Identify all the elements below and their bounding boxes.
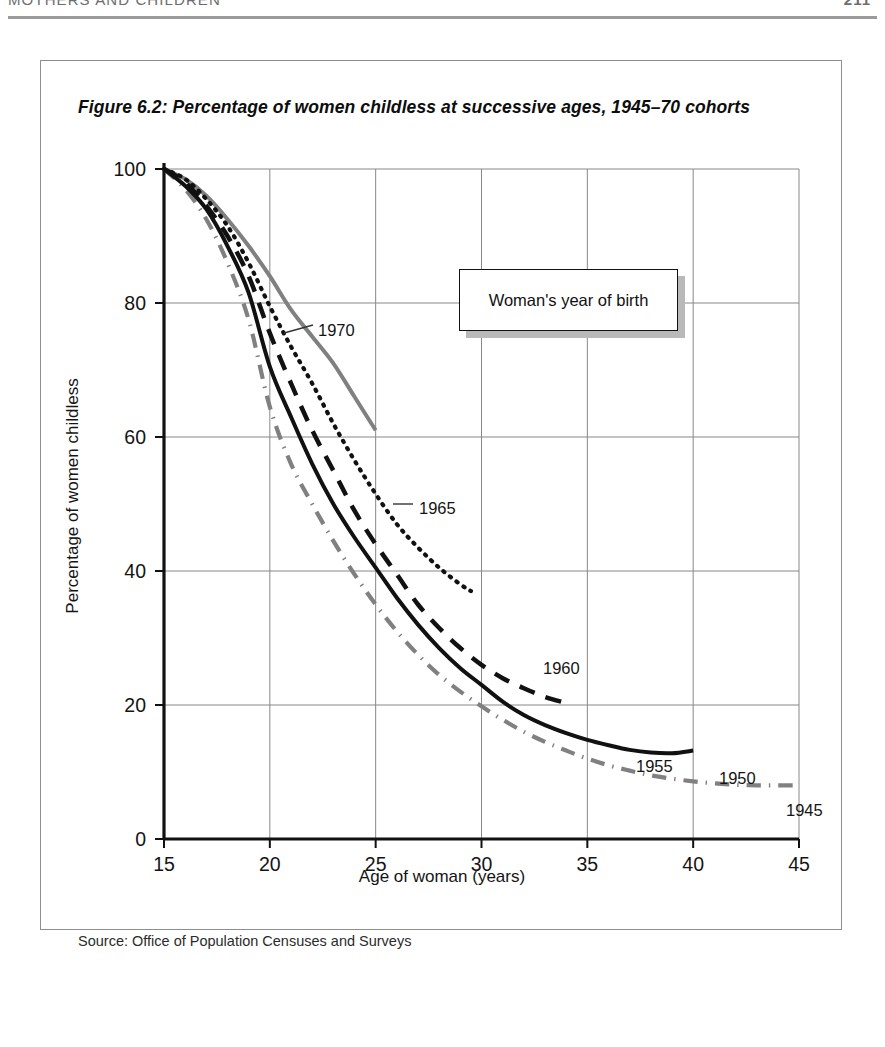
- y-tick-label: 20: [124, 694, 146, 716]
- page-number: 211: [844, 0, 871, 8]
- y-tick-label: 100: [113, 158, 146, 180]
- y-tick-label: 80: [124, 292, 146, 314]
- x-axis-title: Age of woman (years): [41, 867, 843, 887]
- series-line-1955: [164, 169, 566, 703]
- chart-plot-area: 02040608010015202530354045 Percentage of…: [41, 61, 843, 931]
- y-tick-label: 0: [135, 828, 146, 850]
- legend-box: Woman's year of birth: [459, 269, 678, 331]
- running-head-title: MOTHERS AND CHILDREN: [8, 0, 221, 8]
- series-label-1960: 1960: [543, 659, 580, 678]
- series-line-1960: [164, 169, 471, 591]
- chart-svg: 02040608010015202530354045: [41, 61, 843, 931]
- y-tick-label: 40: [124, 560, 146, 582]
- series-label-1965: 1965: [419, 499, 456, 518]
- series-label-1950: 1950: [719, 769, 756, 788]
- header-divider-rule: [8, 16, 877, 19]
- chart-tick-labels: 02040608010015202530354045: [113, 158, 810, 875]
- figure-frame: Figure 6.2: Percentage of women childles…: [40, 60, 842, 930]
- series-label-1955: 1955: [636, 757, 673, 776]
- y-tick-label: 60: [124, 426, 146, 448]
- y-axis-title: Percentage of women childless: [63, 296, 83, 696]
- legend-title: Woman's year of birth: [460, 270, 677, 330]
- source-note: Source: Office of Population Censuses an…: [78, 933, 411, 949]
- series-label-1970: 1970: [318, 321, 355, 340]
- series-label-1945: 1945: [786, 801, 823, 820]
- page-header: MOTHERS AND CHILDREN 211: [0, 0, 885, 26]
